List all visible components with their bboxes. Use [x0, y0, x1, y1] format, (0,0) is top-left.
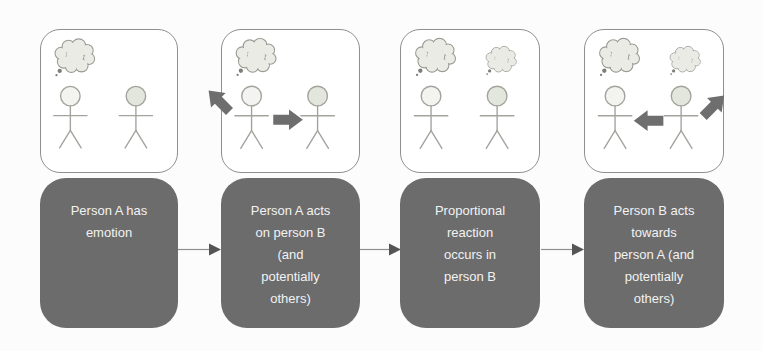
step-box-2: Person A acts on person B (and potential… [221, 178, 360, 328]
step-column-2: Person A acts on person B (and potential… [221, 0, 360, 351]
thought-bubble-icon [55, 39, 95, 76]
block-arrow-up-left-icon [201, 83, 237, 119]
thought-bubble-icon [600, 38, 640, 76]
thought-bubble-icon [670, 46, 700, 75]
scene-person-a-acts [222, 30, 359, 172]
stick-figure-person-a [235, 86, 269, 148]
block-arrow-left-icon [634, 110, 664, 131]
step-box-4: Person B acts towards person A (and pote… [584, 178, 724, 328]
step-column-3: Proportional reaction occurs in person B [400, 0, 540, 351]
step-box-3: Proportional reaction occurs in person B [400, 178, 540, 328]
step-column-1: Person A has emotion [40, 0, 178, 351]
flow-arrow-1 [178, 243, 221, 256]
stick-figure-person-a [598, 86, 632, 148]
step-column-4: Person B acts towards person A (and pote… [584, 0, 724, 351]
thought-bubble-icon [486, 46, 516, 75]
stick-figure-person-b [664, 86, 698, 148]
stick-figure-person-a [54, 86, 87, 148]
block-arrow-right-icon [273, 109, 303, 130]
flow-arrow-icon [178, 243, 221, 256]
scene-person-a-has-emotion [41, 30, 177, 172]
stick-figure-person-b [480, 86, 514, 148]
illustration-panel-4 [584, 29, 724, 173]
scene-proportional-reaction [401, 30, 539, 172]
flow-arrow-icon [360, 243, 401, 256]
thought-bubble-icon [236, 38, 276, 76]
step-box-1: Person A has emotion [40, 178, 178, 328]
scene-person-b-acts [585, 30, 723, 172]
flow-arrow-icon [541, 243, 584, 256]
process-diagram: Person A has emotion Person A acts on pe… [0, 0, 762, 351]
illustration-panel-3 [400, 29, 540, 173]
flow-arrow-3 [541, 243, 584, 256]
stick-figure-person-b [301, 86, 335, 148]
stick-figure-person-a [414, 86, 448, 148]
block-arrow-up-right-icon [696, 88, 732, 124]
illustration-panel-1 [40, 29, 178, 173]
flow-arrow-2 [360, 243, 401, 256]
stick-figure-person-b [119, 86, 152, 148]
thought-bubble-icon [416, 38, 456, 76]
illustration-panel-2 [221, 29, 360, 173]
